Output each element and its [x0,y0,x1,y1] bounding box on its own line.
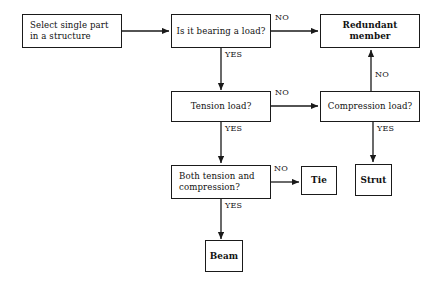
node-tension-load-label: Tension load? [191,101,252,112]
node-strut-label: Strut [360,175,386,186]
node-beam[interactable]: Beam [205,240,243,272]
node-is-it-bearing-a-load-label: Is it bearing a load? [177,26,266,37]
node-is-it-bearing-a-load[interactable]: Is it bearing a load? [171,14,271,48]
node-tie-label: Tie [311,175,327,186]
node-beam-label: Beam [210,251,238,262]
node-tension-load[interactable]: Tension load? [171,91,271,122]
node-both-tension-and-compression[interactable]: Both tension and compression? [171,165,271,199]
node-select-single-part-label: Select single part in a structure [30,20,109,41]
edge-label-bearing-no: NO [275,13,289,22]
node-compression-load[interactable]: Compression load? [320,91,420,122]
edge-label-compression-yes: YES [377,124,394,133]
node-redundant-member[interactable]: Redundant member [320,14,420,48]
node-compression-load-label: Compression load? [328,101,412,112]
edge-label-compression-no: NO [375,70,389,79]
edge-label-tension-no: NO [275,88,289,97]
node-strut[interactable]: Strut [355,164,392,196]
node-redundant-member-label: Redundant member [321,20,419,42]
edge-label-bearing-yes: YES [225,50,242,59]
node-both-tension-and-compression-label: Both tension and compression? [179,171,255,192]
edge-label-both-yes: YES [225,201,242,210]
node-tie[interactable]: Tie [301,166,337,195]
edge-label-both-no: NO [274,164,288,173]
edge-label-tension-yes: YES [225,124,242,133]
node-select-single-part[interactable]: Select single part in a structure [22,14,122,48]
flowchart-canvas: Redundant member --> Tension load? --> C… [0,0,442,287]
